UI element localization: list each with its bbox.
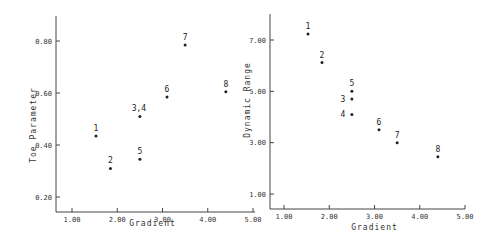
panel-2-x-tick-label: 5.00 — [457, 213, 474, 221]
panel-2-y-tick-label: 1.00 — [249, 191, 266, 199]
panel-2-point-label: 7 — [395, 131, 400, 140]
panel-1-y-axis-label: Toe Parameter — [29, 87, 38, 163]
panel-1-x-tick-label: 1.00 — [64, 216, 81, 224]
panel-2-data-point — [306, 33, 309, 36]
panel-2-point-label: 2 — [320, 51, 325, 60]
panel-1-data-point — [184, 43, 187, 46]
panel-2-point-label: 3 — [340, 95, 345, 104]
panel-2-y-tick-label: 3.00 — [249, 139, 266, 147]
panel-2-y-axis-label: Dynamic Range — [243, 62, 252, 138]
panel-2-data-point — [350, 98, 353, 101]
panel-1-point-label: 5 — [137, 147, 142, 156]
panel-1-data-point — [138, 158, 141, 161]
panel-2-x-tick-label: 2.00 — [321, 213, 338, 221]
panel-2-point-label: 6 — [377, 118, 382, 127]
panel-1-data-point — [166, 95, 169, 98]
panel-1-data-point — [224, 90, 227, 93]
panel-1-point-label: 7 — [183, 33, 188, 42]
panel-2-data-point — [378, 128, 381, 131]
panel-1-point-label: 2 — [108, 156, 113, 165]
chart-figure: 0.200.400.600.801.002.003.004.005.00Grad… — [0, 0, 493, 241]
panel-1-point-label: 6 — [165, 85, 170, 94]
panel-2-point-label: 1 — [306, 22, 311, 31]
panel-2-data-point — [350, 113, 353, 116]
panel-1-x-tick-label: 4.00 — [199, 216, 216, 224]
panel-2-data-point — [321, 61, 324, 64]
panel-2-x-tick-label: 4.00 — [411, 213, 428, 221]
panel-2-data-point — [396, 141, 399, 144]
panel-1-y-tick-label: 0.80 — [35, 38, 52, 46]
panel-1-data-point — [138, 115, 141, 118]
panel-1-x-tick-label: 5.00 — [245, 216, 262, 224]
panel-1-x-tick-label: 2.00 — [109, 216, 126, 224]
panel-2-x-axis-label: Gradient — [351, 223, 398, 232]
panel-2-x-tick-label: 1.00 — [276, 213, 293, 221]
panel-1-point-label: 1 — [94, 124, 99, 133]
panel-2-x-tick-label: 3.00 — [366, 213, 383, 221]
panel-1-data-point — [94, 134, 97, 137]
panel-2-data-point — [350, 90, 353, 93]
panel-1-x-axis-label: Gradient — [129, 219, 176, 228]
panel-2-point-label: 8 — [435, 145, 440, 154]
panel-1-y-tick-label: 0.20 — [35, 194, 52, 202]
panel-2-data-point — [436, 155, 439, 158]
panel-2-point-label: 5 — [349, 79, 354, 88]
panel-1-data-point — [109, 167, 112, 170]
panel-2-y-tick-label: 7.00 — [249, 37, 266, 45]
panel-2-point-label: 4 — [340, 110, 345, 119]
panel-1-point-label: 8 — [223, 80, 228, 89]
panel-1-point-label: 3,4 — [132, 104, 147, 113]
